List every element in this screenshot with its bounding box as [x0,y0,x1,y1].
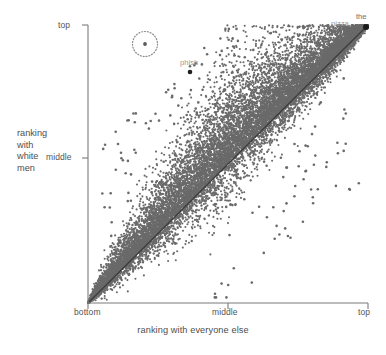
y-axis-title-line-1: ranking [17,128,63,140]
phish-point [188,70,193,75]
the-point [363,24,369,30]
x-axis-tick-label-top: top [358,307,370,317]
outlier-point [143,42,147,46]
plot-canvas [0,0,386,355]
annotation-label-pizza: pizza [331,19,349,28]
y-axis-title-line-3: white [17,151,63,163]
y-axis-title-line-2: with [17,140,63,152]
annotation-label-the: the [356,12,367,21]
y-axis-title: ranking with white men [17,128,63,174]
scatter-plot-figure: top middle bottom middle top ranking wit… [0,0,386,355]
y-axis-tick-label-top: top [58,20,70,30]
x-axis-title: ranking with everyone else [0,325,386,335]
x-axis-tick-label-bottom: bottom [74,307,101,317]
y-axis-title-line-4: men [17,163,63,175]
annotation-label-phish: phish [180,58,198,67]
x-axis-tick-label-middle: middle [212,307,238,317]
